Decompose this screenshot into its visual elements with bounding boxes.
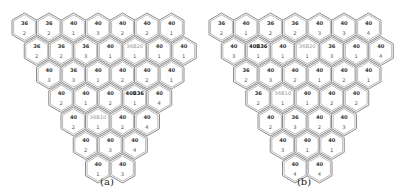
hex-top-value: 40	[70, 20, 78, 26]
hex-cell: 402	[110, 107, 135, 136]
hex-cell: 404	[122, 131, 147, 160]
hex-cell: 402	[73, 131, 98, 160]
hex-top-value: 40	[107, 137, 115, 143]
hex-bottom-value: 1	[355, 53, 358, 59]
hex-top-value: 36B20	[126, 43, 143, 49]
hex-bottom-value: 3	[318, 30, 321, 36]
hex-bottom-value: 1	[306, 147, 309, 153]
hex-top-value: 40	[82, 137, 90, 143]
hex-top-value: 40	[180, 43, 188, 49]
hex-top-value: 40	[291, 67, 299, 73]
hex-cell: 403	[86, 13, 111, 42]
hex-bottom-value: 2	[257, 100, 260, 106]
hex-top-value: 40	[291, 161, 299, 167]
hex-bottom-value: 1	[281, 53, 284, 59]
hex-top-value: 40	[340, 20, 348, 26]
hex-top-value: 40	[82, 90, 90, 96]
hex-diagram: 36236240140340240240136236236340136B2014…	[0, 0, 405, 194]
hex-bottom-value: 1	[170, 77, 173, 83]
hex-cell: 403	[221, 37, 246, 66]
hex-bottom-value: 2	[72, 124, 75, 130]
hex-cell: 401	[147, 37, 172, 66]
hex-bottom-value: 2	[293, 30, 296, 36]
hex-top-value: 36B20	[299, 43, 316, 49]
hex-top-value: 40	[168, 20, 176, 26]
hex-bottom-value: 3	[269, 77, 272, 83]
hex-cell: 403	[307, 13, 332, 42]
hex-cell: 36B201	[295, 37, 320, 66]
hex-bottom-value: 3	[96, 30, 99, 36]
hex-bottom-value: 1	[72, 30, 75, 36]
hex-cell: 362	[12, 13, 37, 42]
hex-top-value: 40	[143, 20, 151, 26]
hex-grid-canvas: 36236240140340240240136236236340136B2014…	[0, 0, 405, 194]
hex-bottom-value: 2	[145, 77, 148, 83]
hex-bottom-value: 1	[96, 77, 99, 83]
hex-top-value: 40	[316, 114, 324, 120]
hex-top-value: 40	[45, 67, 53, 73]
hex-cell: 36B101	[86, 107, 111, 136]
hex-top-value: 40	[242, 20, 250, 26]
hex-bottom-value: 2	[35, 53, 38, 59]
hex-top-value: 40	[107, 43, 115, 49]
hex-cell: 402	[110, 60, 135, 89]
hex-cell: 401	[295, 131, 320, 160]
hex-bottom-value: 3	[72, 77, 75, 83]
hex-cell: 40B361	[122, 84, 147, 113]
hex-cell: 401	[98, 37, 123, 66]
hex-bottom-value: 1	[367, 77, 370, 83]
hex-top-value: 40	[316, 20, 324, 26]
hex-bottom-value: 1	[244, 30, 247, 36]
hex-cell: 401	[73, 84, 98, 113]
hex-top-value: 36B10	[90, 114, 107, 120]
hex-top-value: 40	[365, 67, 373, 73]
hex-cell: 362	[234, 60, 259, 89]
hex-bottom-value: 1	[133, 53, 136, 59]
hex-cell: 404	[135, 107, 160, 136]
hex-cell: 362	[246, 84, 271, 113]
hex-bottom-value: 3	[281, 147, 284, 153]
hex-cell: 401	[61, 13, 86, 42]
hex-bottom-value: 2	[318, 124, 321, 130]
hex-bottom-value: 2	[23, 30, 26, 36]
hex-top-value: 36	[218, 20, 226, 26]
hex-bottom-value: 1	[182, 53, 185, 59]
hex-cell: 401	[295, 84, 320, 113]
hex-cell: 401	[171, 37, 196, 66]
hex-cell: 401	[307, 60, 332, 89]
hex-top-value: 40	[230, 43, 238, 49]
panel-b: 36240136236240340340440340B36140136B2013…	[209, 13, 393, 183]
hex-cell: 363	[73, 37, 98, 66]
hex-cell: 402	[344, 84, 369, 113]
hex-cell: 401	[234, 13, 259, 42]
hex-cell: 402	[332, 60, 357, 89]
hex-cell: 401	[159, 60, 184, 89]
hex-cell: 402	[110, 13, 135, 42]
hex-bottom-value: 1	[170, 30, 173, 36]
hex-cell: 402	[49, 84, 74, 113]
hex-top-value: 40	[304, 90, 312, 96]
hex-top-value: 40	[143, 114, 151, 120]
hex-top-value: 40	[340, 114, 348, 120]
hex-cell: 402	[135, 60, 160, 89]
hex-cell: 402	[319, 84, 344, 113]
caption-a: (a)	[100, 176, 114, 187]
hex-top-value: 40	[353, 90, 361, 96]
hex-bottom-value: 2	[121, 124, 124, 130]
hex-cell: 401	[356, 60, 381, 89]
hex-cell: 403	[37, 60, 62, 89]
hex-cell: 402	[135, 13, 160, 42]
hex-top-value: 40	[131, 137, 139, 143]
hex-top-value: 40	[316, 67, 324, 73]
hex-cell: 404	[356, 13, 381, 42]
hex-top-value: 36B10	[274, 90, 291, 96]
hex-top-value: 40	[365, 20, 373, 26]
hex-top-value: 36	[70, 67, 78, 73]
hex-bottom-value: 1	[281, 100, 284, 106]
hex-top-value: 36	[82, 43, 90, 49]
hex-top-value: 40	[119, 161, 127, 167]
hex-bottom-value: 2	[84, 147, 87, 153]
hex-cell: 401	[86, 60, 111, 89]
hex-bottom-value: 2	[293, 77, 296, 83]
hex-bottom-value: 1	[109, 53, 112, 59]
